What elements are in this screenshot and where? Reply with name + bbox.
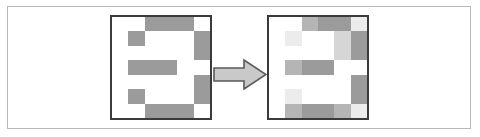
result-pixel-grid: [269, 17, 367, 118]
pixel-cell: [269, 104, 285, 118]
pixel-cell: [194, 89, 210, 103]
pixel-cell: [161, 31, 177, 45]
pixel-cell: [351, 17, 367, 31]
pixel-cell: [285, 60, 301, 74]
pixel-cell: [334, 31, 350, 45]
pixel-cell: [351, 75, 367, 89]
pixel-cell: [285, 31, 301, 45]
pixel-cell: [334, 60, 350, 74]
pixel-cell: [318, 89, 334, 103]
pixel-cell: [128, 31, 144, 45]
pixel-cell: [177, 104, 193, 118]
pixel-cell: [112, 75, 128, 89]
pixel-cell: [269, 75, 285, 89]
pixel-cell: [128, 60, 144, 74]
pixel-cell: [194, 60, 210, 74]
pixel-cell: [302, 60, 318, 74]
pixel-cell: [194, 104, 210, 118]
pixel-cell: [318, 31, 334, 45]
pixel-cell: [161, 60, 177, 74]
pixel-cell: [112, 17, 128, 31]
pixel-cell: [302, 46, 318, 60]
pixel-cell: [177, 31, 193, 45]
pixel-cell: [269, 89, 285, 103]
pixel-cell: [285, 89, 301, 103]
pixel-cell: [285, 75, 301, 89]
pixel-cell: [177, 75, 193, 89]
pixel-cell: [351, 31, 367, 45]
pixel-cell: [128, 89, 144, 103]
pixel-cell: [161, 89, 177, 103]
pixel-cell: [351, 89, 367, 103]
pixel-cell: [145, 60, 161, 74]
pixel-cell: [161, 17, 177, 31]
pixel-cell: [161, 46, 177, 60]
pixel-cell: [351, 46, 367, 60]
pixel-cell: [161, 104, 177, 118]
pixel-cell: [194, 17, 210, 31]
pixel-cell: [318, 104, 334, 118]
pixel-cell: [145, 89, 161, 103]
right-arrow-icon: [213, 58, 267, 91]
pixel-cell: [177, 46, 193, 60]
pixel-cell: [161, 75, 177, 89]
right-arrow-glyph: [213, 58, 267, 91]
pixel-cell: [334, 89, 350, 103]
pixel-cell: [128, 17, 144, 31]
figure-root: [0, 0, 480, 137]
pixel-cell: [112, 104, 128, 118]
pixel-cell: [334, 75, 350, 89]
pixel-cell: [128, 46, 144, 60]
pixel-cell: [112, 46, 128, 60]
pixel-cell: [112, 60, 128, 74]
pixel-cell: [302, 31, 318, 45]
pixel-cell: [318, 17, 334, 31]
pixel-cell: [302, 104, 318, 118]
arrow-shape: [214, 60, 266, 89]
pixel-cell: [334, 104, 350, 118]
pixel-cell: [269, 60, 285, 74]
pixel-cell: [351, 104, 367, 118]
source-panel: [110, 15, 212, 120]
pixel-cell: [269, 46, 285, 60]
pixel-cell: [177, 89, 193, 103]
pixel-cell: [302, 75, 318, 89]
pixel-cell: [145, 104, 161, 118]
pixel-cell: [194, 46, 210, 60]
pixel-cell: [145, 75, 161, 89]
pixel-cell: [318, 46, 334, 60]
result-panel: [267, 15, 369, 120]
pixel-cell: [285, 46, 301, 60]
pixel-cell: [194, 31, 210, 45]
pixel-cell: [351, 60, 367, 74]
pixel-cell: [302, 17, 318, 31]
pixel-cell: [269, 17, 285, 31]
pixel-cell: [269, 31, 285, 45]
pixel-cell: [334, 17, 350, 31]
pixel-cell: [194, 75, 210, 89]
pixel-cell: [145, 46, 161, 60]
pixel-cell: [302, 89, 318, 103]
pixel-cell: [112, 31, 128, 45]
pixel-cell: [128, 75, 144, 89]
pixel-cell: [285, 17, 301, 31]
pixel-cell: [177, 17, 193, 31]
pixel-cell: [128, 104, 144, 118]
pixel-cell: [145, 31, 161, 45]
pixel-cell: [177, 60, 193, 74]
pixel-cell: [285, 104, 301, 118]
pixel-cell: [318, 60, 334, 74]
pixel-cell: [318, 75, 334, 89]
source-pixel-grid: [112, 17, 210, 118]
pixel-cell: [112, 89, 128, 103]
pixel-cell: [334, 46, 350, 60]
pixel-cell: [145, 17, 161, 31]
